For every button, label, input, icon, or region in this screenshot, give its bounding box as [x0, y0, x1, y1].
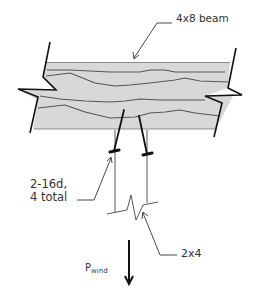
beam-label: 4x8 beam	[176, 12, 229, 24]
nails-leader	[77, 158, 111, 200]
stud-label: 2x4	[181, 248, 202, 260]
wind-load-arrow	[125, 240, 133, 284]
beam	[18, 42, 242, 137]
connection-diagram	[0, 0, 255, 302]
nails-label: 2-16d, 4 total	[30, 178, 67, 204]
nail-left-head	[110, 150, 119, 152]
beam-leader	[134, 23, 172, 58]
load-subscript: wind	[91, 267, 108, 275]
nail-right-head	[143, 153, 152, 155]
stud	[107, 130, 158, 220]
stud-leader	[143, 213, 177, 255]
wind-load-label: Pwind	[85, 262, 108, 277]
nails-label-line2: 4 total	[30, 191, 67, 204]
